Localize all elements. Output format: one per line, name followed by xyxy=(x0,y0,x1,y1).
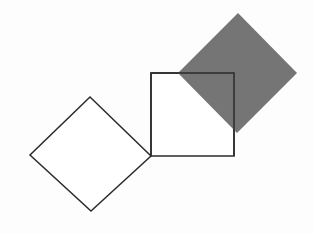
figure-svg xyxy=(0,0,314,234)
figure-canvas xyxy=(0,0,314,234)
